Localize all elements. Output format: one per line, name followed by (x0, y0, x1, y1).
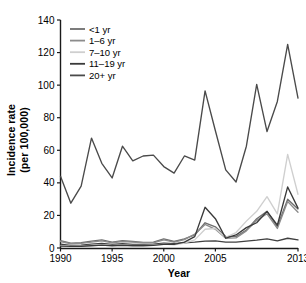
y-tick-label: 80 (43, 112, 55, 123)
legend-label: <1 yr (89, 24, 110, 35)
chart-canvas: Incidence rate (per 100,000) 02040608010… (0, 0, 306, 283)
y-axis-tick-labels: 020406080100120140 (38, 15, 55, 254)
y-tick-label: 140 (38, 15, 55, 26)
x-tick-label: 1995 (101, 253, 124, 264)
series-line--1-yr (61, 199, 299, 243)
x-tick-label: 2005 (204, 253, 227, 264)
y-tick-label: 100 (38, 80, 55, 91)
y-axis-title-line1: Incidence rate (5, 104, 17, 176)
y-tick-label: 20 (43, 210, 55, 221)
y-tick-label: 120 (38, 47, 55, 58)
series-line-11-19-yr (61, 187, 299, 246)
incidence-rate-line-chart: Incidence rate (per 100,000) 02040608010… (0, 0, 306, 283)
x-tick-label: 2013 (287, 253, 306, 264)
x-axis-tick-labels: 19901995200020052013 (49, 253, 306, 264)
legend-label: 20+ yr (89, 70, 116, 81)
chart-legend: <1 yr1–6 yr7–10 yr11–19 yr20+ yr (70, 24, 125, 81)
y-tick-label: 40 (43, 177, 55, 188)
y-axis-title-line2: (per 100,000) (18, 107, 30, 173)
series-line-7-10-yr (61, 154, 299, 246)
y-tick-label: 0 (49, 243, 55, 254)
y-axis-title: Incidence rate (per 100,000) (5, 104, 30, 176)
x-tick-label: 1990 (49, 253, 72, 264)
legend-label: 1–6 yr (89, 35, 115, 46)
x-axis-title: Year (168, 267, 191, 279)
x-tick-label: 2000 (153, 253, 176, 264)
legend-label: 7–10 yr (89, 47, 121, 58)
y-tick-label: 60 (43, 145, 55, 156)
series-line-1-6-yr (61, 202, 299, 244)
legend-label: 11–19 yr (89, 58, 125, 69)
